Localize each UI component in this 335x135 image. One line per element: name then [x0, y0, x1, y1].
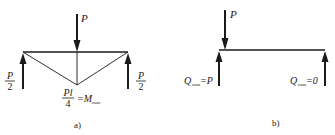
- svg-text:2: 2: [139, 81, 144, 92]
- max-moment-label: Pl 4 =M max: [62, 87, 101, 109]
- diagram-b: P Q max =P Q max =0 b): [184, 8, 329, 128]
- svg-text:P: P: [6, 70, 13, 81]
- svg-text:Q: Q: [184, 75, 192, 86]
- right-shear-label: Q max =0: [290, 75, 318, 87]
- svg-text:P: P: [137, 70, 144, 81]
- left-shear-label: Q max =P: [184, 75, 213, 87]
- load-arrow-down-icon: [222, 10, 229, 50]
- svg-text:Pl: Pl: [63, 87, 73, 98]
- caption-a: a): [74, 120, 81, 130]
- svg-text:=P: =P: [200, 75, 213, 86]
- svg-text:Q: Q: [290, 75, 298, 86]
- svg-text:4: 4: [66, 98, 71, 109]
- reaction-arrow-up-icon: [20, 53, 27, 89]
- caption-b: b): [272, 118, 280, 128]
- reaction-arrow-up-icon: [216, 51, 223, 86]
- diagram-a: P P 2 P 2 Pl 4 =M max a): [5, 12, 146, 130]
- reaction-arrow-up-icon: [322, 51, 329, 86]
- moment-diagram: [23, 52, 128, 85]
- load-label-b: P: [229, 8, 237, 20]
- svg-text:2: 2: [8, 81, 13, 92]
- reaction-arrow-up-icon: [125, 53, 132, 89]
- svg-text:=M: =M: [77, 93, 93, 104]
- load-label-a: P: [80, 12, 88, 24]
- right-reaction-label: P 2: [136, 70, 146, 92]
- load-arrow-down-icon: [74, 14, 81, 52]
- beam-diagrams: P P 2 P 2 Pl 4 =M max a): [0, 0, 335, 135]
- svg-text:=0: =0: [306, 75, 318, 86]
- left-reaction-label: P 2: [5, 70, 15, 92]
- svg-text:max: max: [92, 100, 101, 105]
